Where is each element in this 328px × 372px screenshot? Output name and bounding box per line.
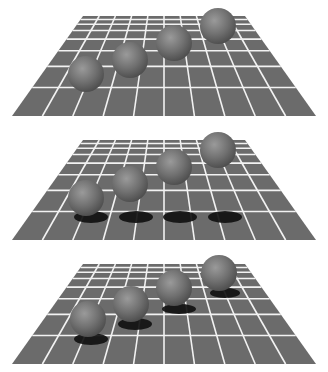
cast-shadow	[208, 211, 242, 223]
cast-shadow	[119, 211, 153, 223]
sphere	[200, 8, 236, 44]
sphere	[68, 56, 104, 92]
sphere	[68, 180, 104, 216]
panel-no-shadows	[12, 8, 316, 116]
figure-canvas	[0, 0, 328, 372]
sphere	[70, 301, 106, 337]
cast-shadow	[163, 211, 197, 223]
sphere	[156, 25, 192, 61]
cast-shadow	[162, 304, 196, 314]
sphere	[113, 286, 149, 322]
sphere	[156, 149, 192, 185]
sphere	[156, 270, 192, 306]
panel-shadows-under-spheres	[12, 255, 316, 364]
sphere	[112, 166, 148, 202]
sphere	[201, 255, 237, 291]
sphere	[200, 132, 236, 168]
sphere	[112, 42, 148, 78]
panel-shadows-in-row	[12, 132, 316, 240]
shadow-depth-diagram	[0, 0, 328, 372]
